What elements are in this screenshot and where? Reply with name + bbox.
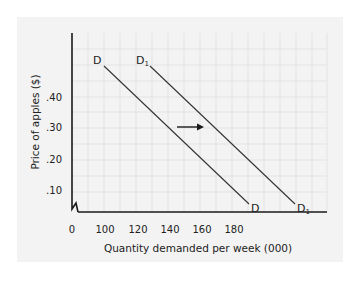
x-tick-0: 0 <box>69 224 75 235</box>
x-tick-140: 140 <box>160 224 179 235</box>
curve-label-d-bottom: D <box>251 202 259 215</box>
demand-shift-chart: .40 .30 .20 .10 0 100 120 140 160 180 Qu… <box>0 0 359 286</box>
demand-curve-d <box>104 66 249 204</box>
axes <box>72 33 327 212</box>
x-tick-180: 180 <box>224 224 243 235</box>
x-tick-100: 100 <box>95 224 114 235</box>
y-tick-010: .10 <box>46 185 62 196</box>
x-tick-120: 120 <box>128 224 147 235</box>
axis-break-icon <box>72 203 78 212</box>
grid <box>72 33 327 212</box>
x-tick-160: 160 <box>192 224 211 235</box>
y-tick-040: .40 <box>46 92 62 103</box>
y-tick-labels: .40 .30 .20 .10 <box>46 92 62 196</box>
curve-label-d1-bottom: D1 <box>297 202 310 216</box>
x-axis-title: Quantity demanded per week (000) <box>104 242 292 254</box>
y-tick-030: .30 <box>46 122 62 133</box>
curve-label-d1-top: D1 <box>136 54 149 68</box>
x-tick-labels: 0 100 120 140 160 180 <box>69 224 244 235</box>
demand-curve-d1 <box>150 66 295 204</box>
y-axis-title: Price of apples ($) <box>29 74 41 169</box>
curve-label-d-top: D <box>93 54 101 67</box>
y-tick-020: .20 <box>46 154 62 165</box>
